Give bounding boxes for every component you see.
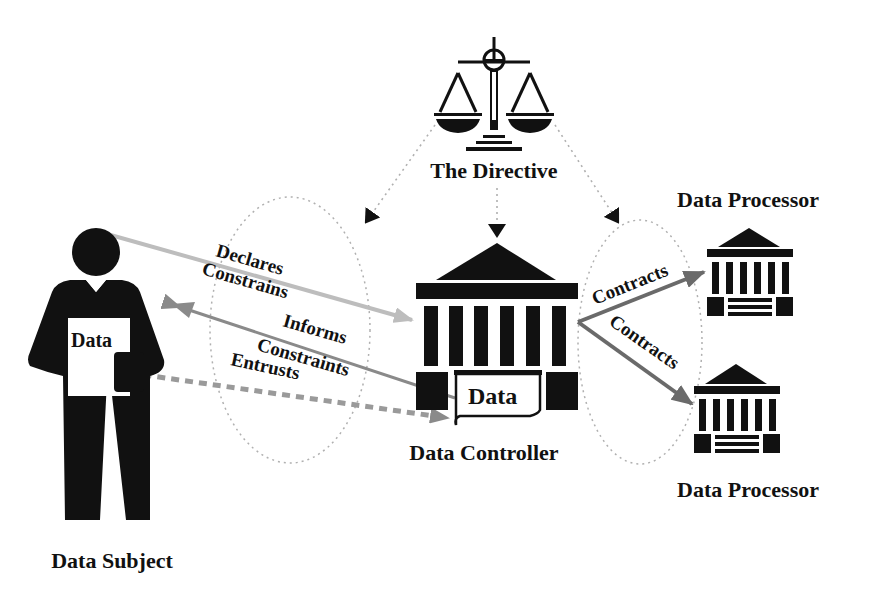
person-icon [28, 228, 164, 520]
processor-bottom-building-icon [694, 364, 780, 453]
directive-to-subject-relation-arrow [366, 125, 435, 222]
informs-constraints-arrowhead [172, 302, 195, 318]
contracts-bottom-label: Contracts [606, 310, 684, 373]
gdpr-roles-diagram: The Directive Declares Constrains Inform… [0, 0, 872, 592]
directive-label: The Directive [430, 158, 558, 183]
subject-document-label: Data [71, 329, 112, 351]
processor-top-building-icon [707, 228, 793, 316]
controller-label: Data Controller [409, 440, 559, 465]
subject-label: Data Subject [51, 548, 173, 573]
scales-of-justice-icon [434, 37, 554, 151]
directive-to-processor-relation-arrow [555, 125, 618, 222]
controller-document-label: Data [468, 383, 517, 409]
processor-bottom-label: Data Processor [677, 477, 819, 502]
processor-top-label: Data Processor [677, 187, 819, 212]
